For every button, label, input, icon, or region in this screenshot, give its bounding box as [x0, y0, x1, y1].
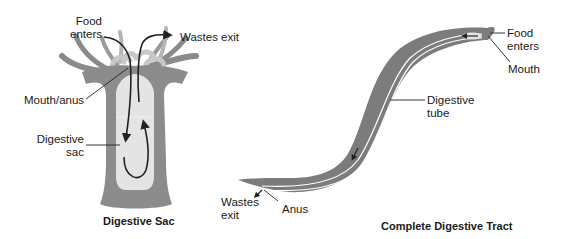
label-line: sac: [24, 146, 84, 159]
anus-leader: [264, 190, 278, 201]
label-wastes-exit-tract: Wastes exit: [221, 196, 259, 222]
label-food-enters-sac: Food enters: [62, 15, 102, 41]
label-line: tube: [427, 107, 474, 120]
label-wastes-exit-sac: Wastes exit: [180, 31, 239, 44]
label-line: exit: [221, 209, 259, 222]
label-line: Digestive: [24, 133, 84, 146]
label-mouth-anus: Mouth/anus: [24, 94, 84, 107]
label-line: enters: [62, 28, 102, 41]
label-line: Food: [507, 27, 539, 40]
digestive-sac-cavity: [116, 74, 154, 190]
label-digestive-sac: Digestive sac: [24, 133, 84, 159]
label-line: enters: [507, 40, 539, 53]
label-food-enters-tract: Food enters: [507, 27, 539, 53]
label-digestive-tube: Digestive tube: [427, 94, 474, 120]
label-line: Digestive: [427, 94, 474, 107]
caption-complete-digestive-tract: Complete Digestive Tract: [381, 220, 512, 232]
label-anus: Anus: [282, 203, 308, 216]
hydra-illustration: [62, 28, 196, 209]
label-line: Wastes: [221, 196, 259, 209]
label-line: Food: [62, 15, 102, 28]
label-mouth: Mouth: [508, 63, 540, 76]
caption-digestive-sac: Digestive Sac: [103, 215, 175, 227]
